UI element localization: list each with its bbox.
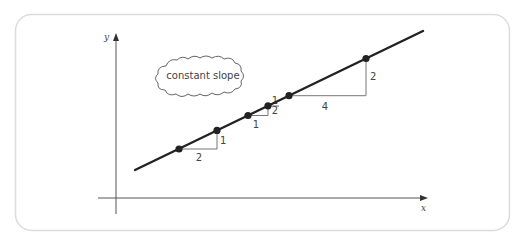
x-axis-label: x — [421, 203, 426, 213]
point-marker — [244, 112, 251, 119]
constant-slope-callout: constant slope — [156, 56, 244, 97]
run-label: 2 — [196, 152, 202, 163]
rise-label: 2 — [370, 71, 376, 82]
point-marker — [175, 145, 182, 152]
point-marker — [264, 102, 271, 109]
point-marker — [362, 55, 369, 62]
run-label: 1 — [253, 119, 259, 130]
point-marker — [213, 127, 220, 134]
callout-text: constant slope — [166, 70, 239, 81]
run-label: 4 — [322, 101, 328, 112]
point-marker — [285, 92, 292, 99]
diagram-canvas: y x constant slope 2111242 — [0, 0, 526, 239]
y-axis-label: y — [103, 32, 110, 42]
rise-label: 1 — [220, 135, 226, 146]
rise-denominator: 2 — [272, 105, 278, 116]
